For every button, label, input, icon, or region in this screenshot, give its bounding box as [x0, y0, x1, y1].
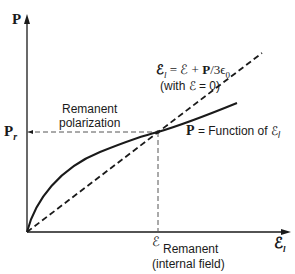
polarization-diagram: P Pr Remanent polarization ℰl = ℰ + P/3ϵ… — [0, 0, 295, 274]
equation-line1: ℰl = ℰ + P/3ϵ0 — [156, 63, 230, 80]
eq-denominator: /3ϵ — [210, 62, 225, 77]
curve-label-text: = Function of ℰ — [195, 124, 278, 138]
internal-field-line — [27, 53, 262, 232]
eq-p: P — [202, 62, 210, 77]
eq-el: ℰ — [156, 62, 164, 77]
e-remanent-symbol: ℰ — [152, 235, 160, 248]
remanent-polarization-line2: polarization — [59, 117, 120, 129]
y-axis-arrow-icon — [24, 14, 30, 24]
x-axis-label: ℰl — [274, 236, 286, 254]
intersection-point — [156, 130, 160, 134]
remanent-polarization-line1: Remanent — [62, 103, 117, 115]
x-axis-label-sub: l — [283, 244, 286, 254]
curve-label-sub: l — [278, 130, 280, 140]
curve-label-p: P — [186, 123, 195, 138]
eq-eps-sub: 0 — [226, 70, 231, 80]
pr-marker-icon — [28, 130, 33, 134]
e-remanent-note: (internal field) — [152, 258, 225, 270]
eq-middle: = ℰ + — [167, 62, 203, 77]
pr-label-sub: r — [13, 131, 17, 142]
e-remanent-sub: Remanent — [163, 243, 218, 255]
pr-label: Pr — [4, 124, 17, 142]
equation-line2: (with ℰ = 0) — [160, 80, 220, 92]
y-axis-label: P — [12, 12, 21, 27]
x-axis-label-main: ℰ — [274, 235, 283, 251]
curve-label: P = Function of ℰl — [186, 124, 280, 140]
pr-label-main: P — [4, 123, 13, 139]
